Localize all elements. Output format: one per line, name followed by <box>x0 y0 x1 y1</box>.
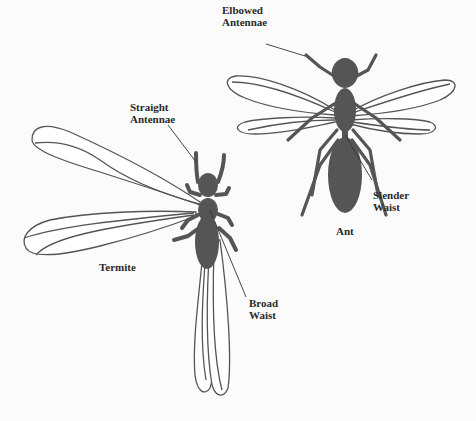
ant-illustration <box>227 55 455 215</box>
leader-elbowed-antennae <box>266 44 305 56</box>
label-elbowed-antennae: Elbowed Antennae <box>222 4 267 28</box>
leader-straight-antennae <box>168 125 196 162</box>
ant-left-wings <box>227 76 335 134</box>
termite-upper-left-wing <box>32 126 200 205</box>
termite-body <box>195 173 219 269</box>
termite-lower-left-wing <box>24 211 196 255</box>
label-termite: Termite <box>99 261 136 273</box>
label-slender-waist: Slender Waist <box>373 189 409 213</box>
label-broad-waist: Broad Waist <box>249 297 278 321</box>
ant-right-wings <box>350 80 455 134</box>
label-straight-antennae: Straight Antennae <box>130 101 175 125</box>
label-ant: Ant <box>336 225 354 237</box>
